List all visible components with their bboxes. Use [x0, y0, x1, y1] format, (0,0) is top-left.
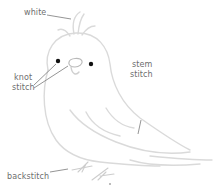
body-front — [44, 70, 160, 166]
label-stem-stitch-2: stitch — [130, 70, 153, 79]
beak-lower — [71, 67, 79, 74]
crest-feather — [78, 14, 84, 34]
beak — [69, 58, 82, 67]
wing-inner — [106, 108, 134, 128]
leader-stem — [138, 120, 141, 134]
leader-backstitch — [50, 169, 68, 172]
bird-illustration — [0, 0, 223, 195]
label-white: white — [24, 8, 46, 17]
label-backstitch: backstitch — [7, 172, 49, 181]
body-outline — [47, 33, 190, 150]
label-knot-stitch-1: knot — [14, 73, 32, 82]
label-stem-stitch-1: stem — [132, 60, 152, 69]
tail — [130, 160, 200, 165]
eye-left — [56, 59, 60, 63]
wing-inner — [86, 112, 120, 136]
leader-white — [47, 15, 71, 19]
foot-dot — [109, 183, 111, 185]
tail — [150, 156, 212, 160]
foot-right — [92, 168, 114, 180]
eye-right — [89, 62, 93, 66]
label-knot-stitch-2: stitch — [12, 83, 35, 92]
